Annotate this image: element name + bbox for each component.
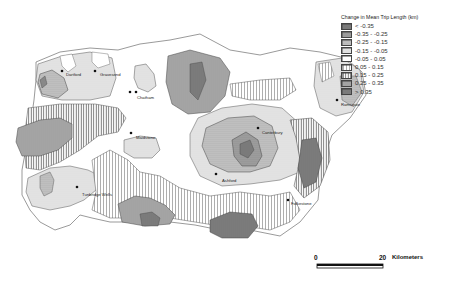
map-legend: Change in Mean Trip Length (km) < -0.35 … xyxy=(341,14,451,96)
legend-item: < -0.35 xyxy=(341,22,451,30)
legend-swatch-icon xyxy=(341,23,352,30)
legend-item: > 0.35 xyxy=(341,88,451,96)
legend-label: 0.05 - 0.15 xyxy=(355,64,384,70)
place-label-ramsgate: Ramsgate xyxy=(341,102,360,107)
legend-swatch-icon xyxy=(341,31,352,38)
place-label-gravesend: Gravesend xyxy=(100,72,120,77)
legend-label: -0.05 - 0.05 xyxy=(355,56,386,62)
legend-title: Change in Mean Trip Length (km) xyxy=(341,14,451,20)
place-label-chatham: Chatham xyxy=(137,95,154,100)
scale-end-label: 20 xyxy=(379,254,386,261)
place-label-ashford: Ashford xyxy=(222,178,236,183)
legend-item: -0.05 - 0.05 xyxy=(341,55,451,63)
legend-label: -0.35 - -0.25 xyxy=(355,31,388,37)
place-label-maidstone: Maidstone xyxy=(136,135,155,140)
place-label-dartford: Dartford xyxy=(66,72,81,77)
place-label-tunbridge-wells: Tunbridge Wells xyxy=(82,192,112,197)
legend-item: -0.25 - -0.15 xyxy=(341,38,451,46)
legend-swatch-icon xyxy=(341,47,352,54)
place-label-folkestone: Folkestone xyxy=(291,201,311,206)
legend-item: -0.15 - -0.05 xyxy=(341,47,451,55)
place-label-canterbury: Canterbury xyxy=(262,130,283,135)
map-figure: Dartford Gravesend Chatham Maidstone Tun… xyxy=(0,0,451,283)
legend-swatch-icon xyxy=(341,39,352,46)
legend-swatch-icon xyxy=(341,80,352,87)
legend-label: > 0.35 xyxy=(355,89,372,95)
legend-label: 0.15 - 0.25 xyxy=(355,72,384,78)
legend-label: < -0.35 xyxy=(355,23,374,29)
legend-swatch-icon xyxy=(341,64,352,71)
scale-start-label: 0 xyxy=(314,254,318,261)
legend-item: 0.15 - 0.25 xyxy=(341,71,451,79)
legend-label: -0.25 - -0.15 xyxy=(355,39,388,45)
legend-label: 0.25 - 0.35 xyxy=(355,80,384,86)
legend-swatch-icon xyxy=(341,72,352,79)
legend-item: 0.05 - 0.15 xyxy=(341,63,451,71)
legend-swatch-icon xyxy=(341,88,352,95)
scale-unit-label: Kilometers xyxy=(392,254,423,260)
legend-swatch-icon xyxy=(341,55,352,62)
scale-bar xyxy=(317,264,383,268)
legend-item: 0.25 - 0.35 xyxy=(341,79,451,87)
legend-label: -0.15 - -0.05 xyxy=(355,48,388,54)
legend-item: -0.35 - -0.25 xyxy=(341,30,451,38)
